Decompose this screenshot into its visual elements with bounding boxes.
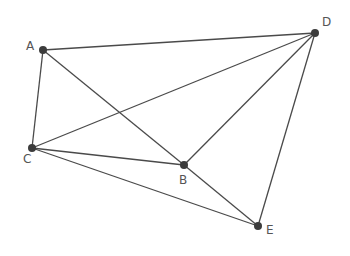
point-label-e: E: [266, 223, 274, 237]
edge-cd: [32, 33, 315, 148]
point-label-d: D: [322, 15, 331, 29]
point-label-a: A: [26, 39, 35, 53]
diagram-svg: ADCBE: [0, 0, 350, 256]
edge-ce: [32, 148, 258, 226]
edge-ac: [32, 50, 43, 148]
point-a: [39, 46, 47, 54]
geometry-diagram: ADCBE: [0, 0, 350, 256]
edge-ab: [43, 50, 184, 165]
point-label-c: C: [23, 152, 31, 166]
point-b: [180, 161, 188, 169]
point-d: [311, 29, 319, 37]
point-label-b: B: [179, 173, 187, 187]
point-e: [254, 222, 262, 230]
edge-be: [184, 165, 258, 226]
edges-group: [32, 33, 315, 226]
point-c: [28, 144, 36, 152]
edge-ad: [43, 33, 315, 50]
points-group: [28, 29, 319, 230]
